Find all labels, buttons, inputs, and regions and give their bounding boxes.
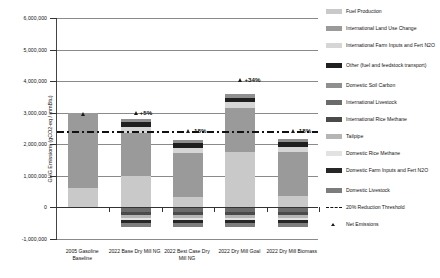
legend-item[interactable]: Tailpipe bbox=[326, 133, 438, 139]
y-axis-title: GHG Emissions (gCO2-eq / mmBtu) bbox=[47, 96, 53, 183]
bar-segment bbox=[173, 197, 203, 207]
legend-color-swatch bbox=[326, 9, 342, 15]
x-axis-labels: 2005 Gasoline Baseline2022 Base Dry Mill… bbox=[56, 248, 318, 274]
x-axis-tick bbox=[319, 207, 320, 212]
bar-segment bbox=[68, 113, 98, 188]
net-emissions-marker bbox=[81, 112, 85, 116]
bar-segment bbox=[225, 102, 255, 108]
y-axis-tick-label: 6,000,000 bbox=[23, 15, 47, 21]
legend-color-swatch bbox=[326, 43, 342, 49]
x-axis-category-label: 2022 Dry Mill Biomass bbox=[266, 248, 318, 255]
legend-label: Domestic Livestock bbox=[346, 187, 390, 193]
bar-segment bbox=[278, 152, 308, 196]
plot-area: +5%-18%+34%-18% bbox=[56, 18, 318, 239]
y-axis-tick bbox=[50, 207, 57, 208]
bar-segment bbox=[278, 223, 308, 227]
legend-color-swatch bbox=[326, 168, 342, 174]
legend-label: International Farm Inputs and Fert N2O bbox=[346, 42, 435, 48]
legend-label: Other (fuel and feedstock transport) bbox=[346, 62, 426, 68]
percent-change-label: -18% bbox=[297, 127, 311, 134]
bar-group bbox=[57, 18, 109, 239]
legend-item[interactable]: 20% Reduction Threshold bbox=[326, 204, 438, 210]
bar-segment bbox=[278, 139, 308, 142]
percent-change-label: -18% bbox=[192, 127, 206, 134]
bar-segment bbox=[225, 94, 255, 97]
net-emissions-marker bbox=[134, 111, 138, 115]
y-axis-tick-label: 3,000,000 bbox=[23, 110, 47, 116]
bar-group bbox=[214, 18, 266, 239]
net-emissions-marker bbox=[238, 78, 242, 82]
legend-label: Fuel Production bbox=[346, 8, 382, 14]
bar-segment bbox=[121, 176, 151, 207]
legend-label: 20% Reduction Threshold bbox=[346, 204, 405, 210]
stacked-bar[interactable] bbox=[225, 18, 255, 239]
x-axis-category-label: 2022 Dry Mill Goal bbox=[213, 248, 265, 255]
legend-color-swatch bbox=[326, 134, 342, 140]
y-axis-tick-label: 5,000,000 bbox=[23, 47, 47, 53]
bar-segment bbox=[68, 188, 98, 207]
bar-segment bbox=[278, 147, 308, 153]
y-axis-tick bbox=[50, 50, 57, 51]
threshold-line-icon bbox=[326, 205, 342, 211]
legend-item[interactable]: Fuel Production bbox=[326, 8, 438, 14]
bar-segment bbox=[121, 122, 151, 127]
legend-color-swatch bbox=[326, 83, 342, 89]
bar-segment bbox=[121, 223, 151, 227]
y-axis-tick-label: 1,000,000 bbox=[23, 173, 47, 179]
legend-color-swatch bbox=[326, 117, 342, 123]
legend-color-swatch bbox=[326, 100, 342, 106]
legend-item[interactable]: Domestic Farm Inputs and Fert N2O bbox=[326, 167, 438, 173]
bar-segment bbox=[173, 143, 203, 148]
legend-label: International Rice Methane bbox=[346, 116, 407, 122]
bar-segment bbox=[173, 140, 203, 143]
legend-color-swatch bbox=[326, 26, 342, 32]
chart-legend: Fuel ProductionInternational Land Use Ch… bbox=[326, 8, 438, 246]
percent-change-label: +34% bbox=[244, 75, 260, 82]
y-axis-tick bbox=[50, 113, 57, 114]
legend-item[interactable]: International Farm Inputs and Fert N2O bbox=[326, 42, 438, 48]
bar-segment bbox=[278, 142, 308, 147]
y-axis-tick-label: 0 bbox=[44, 204, 47, 210]
zero-axis-line bbox=[57, 207, 318, 208]
bar-segment bbox=[121, 119, 151, 122]
y-axis-tick bbox=[50, 81, 57, 82]
stacked-bar[interactable] bbox=[68, 18, 98, 239]
percent-change-label: +5% bbox=[140, 109, 153, 116]
legend-color-swatch bbox=[326, 151, 342, 157]
legend-item[interactable]: Other (fuel and feedstock transport) bbox=[326, 62, 438, 68]
legend-item[interactable]: Net Emissions bbox=[326, 221, 438, 227]
bar-segment bbox=[173, 153, 203, 197]
bar-segment bbox=[173, 223, 203, 227]
net-emissions-marker bbox=[186, 129, 190, 133]
legend-item[interactable]: Domestic Rice Methane bbox=[326, 150, 438, 156]
legend-item[interactable]: International Land Use Change bbox=[326, 25, 438, 31]
legend-color-swatch bbox=[326, 63, 342, 69]
x-axis-category-label: 2005 Gasoline Baseline bbox=[56, 248, 108, 262]
bar-segment bbox=[225, 223, 255, 227]
triangle-marker-icon bbox=[326, 222, 342, 228]
legend-label: International Livestock bbox=[346, 99, 397, 105]
y-axis-tick bbox=[50, 144, 57, 145]
gridline bbox=[57, 239, 318, 240]
legend-item[interactable]: International Livestock bbox=[326, 99, 438, 105]
legend-label: Domestic Rice Methane bbox=[346, 150, 400, 156]
legend-item[interactable]: Domestic Soil Carbon bbox=[326, 82, 438, 88]
bar-segment bbox=[173, 148, 203, 154]
y-axis-tick bbox=[50, 176, 57, 177]
stacked-bar[interactable] bbox=[121, 18, 151, 239]
legend-item[interactable]: International Rice Methane bbox=[326, 116, 438, 122]
x-axis-category-label: 2022 Base Dry Mill NG bbox=[108, 248, 160, 255]
legend-label: Net Emissions bbox=[346, 221, 379, 227]
bar-segment bbox=[278, 196, 308, 207]
legend-label: Tailpipe bbox=[346, 133, 363, 139]
bar-group bbox=[109, 18, 161, 239]
legend-item[interactable]: Domestic Livestock bbox=[326, 187, 438, 193]
bar-segment bbox=[121, 133, 151, 177]
x-axis-category-label: 2022 Best Case Dry Mill NG bbox=[161, 248, 213, 262]
bar-segment bbox=[225, 152, 255, 208]
chart-figure: GHG Emissions (gCO2-eq / mmBtu) +5%-18%+… bbox=[0, 0, 440, 278]
y-axis-tick-label: 2,000,000 bbox=[23, 141, 47, 147]
y-axis-tick bbox=[50, 18, 57, 19]
legend-label: Domestic Soil Carbon bbox=[346, 82, 395, 88]
y-axis-tick-label: -1,000,000 bbox=[22, 236, 47, 242]
